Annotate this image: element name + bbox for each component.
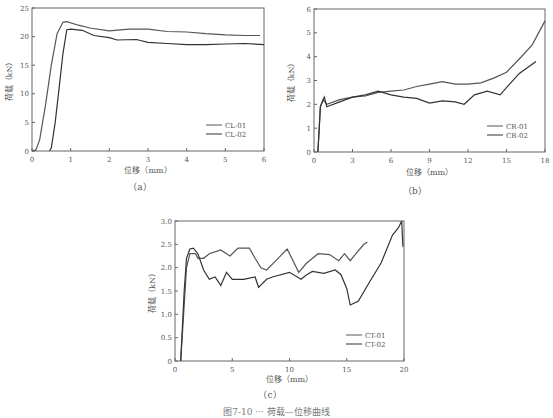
y-tick-label: 2.0	[161, 264, 172, 272]
x-tick-label: 12	[464, 157, 473, 165]
figure-caption: 图7-10 ··· 荷载—位移曲线	[0, 405, 553, 418]
y-tick-label: 0	[25, 148, 29, 156]
chart-a-svg: 01234560510152025位移（mm）荷载（kN）CL-01CL-02	[0, 0, 270, 200]
y-tick-label: 0.5	[161, 334, 172, 342]
y-tick-label: 3.0	[161, 218, 172, 226]
y-tick-label: 20	[20, 33, 29, 41]
y-tick-label: 0	[168, 358, 172, 366]
x-axis-label: 位移（mm）	[266, 374, 313, 384]
chart-c-svg: 0510152000.51.01.52.02.53.0位移（mm）荷载（kN）C…	[130, 210, 430, 410]
y-tick-label: 5	[307, 29, 311, 37]
x-tick-label: 0	[30, 156, 34, 164]
legend-label: CL-01	[225, 122, 246, 130]
y-tick-label: 1.0	[161, 311, 172, 319]
x-tick-label: 0	[312, 157, 316, 165]
x-tick-label: 5	[230, 366, 234, 374]
legend-label: CT-02	[365, 341, 385, 349]
x-axis-label: 位移（mm）	[124, 165, 171, 175]
chart-c-label: （c）	[230, 388, 310, 401]
x-tick-label: 18	[541, 157, 550, 165]
chart-b: 03691215180123456位移（mm）荷载（kN）CR-01CR-02 …	[270, 0, 553, 200]
x-tick-label: 20	[400, 366, 409, 374]
y-axis-label: 荷载（kN）	[147, 269, 157, 313]
y-axis-label: 荷载（kN）	[4, 58, 14, 102]
x-tick-label: 6	[262, 156, 267, 164]
y-tick-label: 15	[20, 62, 29, 70]
x-tick-label: 3	[146, 156, 150, 164]
x-tick-label: 9	[427, 157, 431, 165]
y-tick-label: 25	[20, 5, 29, 13]
y-tick-label: 4	[307, 53, 312, 61]
y-tick-label: 5	[25, 119, 29, 127]
y-tick-label: 10	[20, 90, 29, 98]
y-tick-label: 2.5	[161, 241, 172, 249]
y-tick-label: 1.5	[161, 288, 172, 296]
x-tick-label: 10	[285, 366, 294, 374]
x-tick-label: 15	[502, 157, 511, 165]
x-tick-label: 0	[173, 366, 177, 374]
chart-c: 0510152000.51.01.52.02.53.0位移（mm）荷载（kN）C…	[130, 210, 430, 410]
legend-label: CT-01	[365, 332, 385, 340]
x-tick-label: 4	[184, 156, 189, 164]
x-tick-label: 5	[223, 156, 227, 164]
y-tick-label: 2	[307, 101, 311, 109]
y-tick-label: 1	[307, 125, 311, 133]
x-tick-label: 3	[350, 157, 354, 165]
y-tick-label: 0	[307, 149, 311, 157]
chart-b-label: （b）	[375, 184, 455, 197]
y-axis-label: 荷载（kN）	[286, 59, 296, 103]
x-tick-label: 6	[389, 157, 394, 165]
legend-label: CL-02	[225, 131, 246, 139]
legend-label: CR-02	[506, 132, 528, 140]
x-tick-label: 2	[107, 156, 111, 164]
chart-a: 01234560510152025位移（mm）荷载（kN）CL-01CL-02 …	[0, 0, 270, 200]
y-tick-label: 6	[307, 6, 312, 14]
series-line-CT-01	[181, 242, 368, 361]
y-tick-label: 3	[307, 77, 311, 85]
chart-b-svg: 03691215180123456位移（mm）荷载（kN）CR-01CR-02	[270, 0, 553, 200]
legend-label: CR-01	[506, 123, 528, 131]
chart-a-label: （a）	[100, 180, 180, 193]
x-tick-label: 1	[68, 156, 72, 164]
x-tick-label: 15	[342, 366, 351, 374]
series-line-CR-02	[318, 61, 536, 152]
x-axis-label: 位移（mm）	[406, 167, 453, 177]
